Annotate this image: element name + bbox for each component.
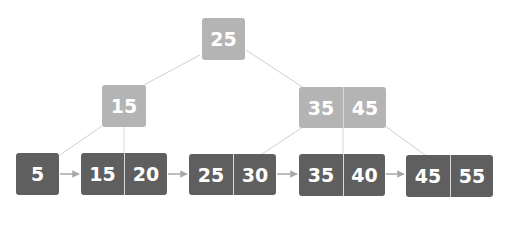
edge-35-45-to-leaf-45-55 <box>385 126 425 155</box>
node-key: 35 <box>299 87 343 128</box>
node-key: 40 <box>343 154 385 196</box>
node-key: 25 <box>189 154 233 195</box>
internal-node-15: 15 <box>102 85 146 127</box>
leaf-node-45-55: 45 55 <box>406 155 493 197</box>
node-key: 5 <box>16 153 59 195</box>
node-key: 20 <box>124 153 167 195</box>
leaf-node-25-30: 25 30 <box>189 154 276 195</box>
root-node: 25 <box>202 18 245 60</box>
b-plus-tree-diagram: 25 15 35 45 5 15 20 25 30 35 40 45 55 <box>0 0 509 226</box>
node-key: 15 <box>81 153 124 195</box>
leaf-node-35-40: 35 40 <box>299 154 385 196</box>
leaf-node-15-20: 15 20 <box>81 153 167 195</box>
leaf-node-5: 5 <box>16 153 59 195</box>
node-key: 45 <box>343 87 386 128</box>
internal-node-35-45: 35 45 <box>299 87 386 128</box>
node-key: 45 <box>406 155 450 197</box>
node-key: 25 <box>202 18 245 60</box>
node-key: 15 <box>102 85 146 127</box>
edge-root-to-internal-15 <box>140 55 200 87</box>
edge-root-to-internal-35-45 <box>246 50 304 88</box>
node-key: 55 <box>450 155 493 197</box>
node-key: 30 <box>233 154 276 195</box>
node-key: 35 <box>299 154 343 196</box>
edge-35-45-to-leaf-25-30 <box>262 127 303 154</box>
edge-15-to-leaf-5 <box>60 126 102 155</box>
